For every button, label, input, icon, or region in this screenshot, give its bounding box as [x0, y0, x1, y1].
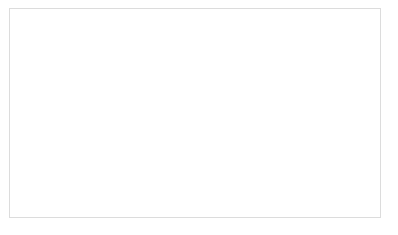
- chart-plot-area: [0, 0, 398, 235]
- line-chart: [0, 0, 398, 235]
